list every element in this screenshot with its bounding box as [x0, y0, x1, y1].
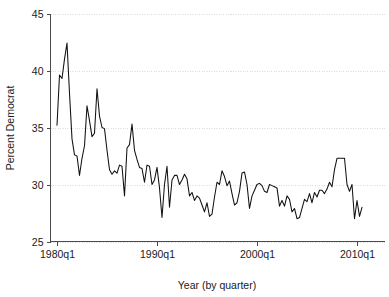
- y-axis-title: Percent Democrat: [4, 86, 16, 171]
- x-tick-label: 1980q1: [40, 248, 75, 260]
- y-tick-label: 45: [32, 8, 44, 20]
- percent-democrat-line-chart: 2530354045 1980q11990q12000q12010q1 Year…: [0, 0, 389, 297]
- y-tick-label: 35: [32, 122, 44, 134]
- x-tick-label: 2010q1: [340, 248, 375, 260]
- chart-container: 2530354045 1980q11990q12000q12010q1 Year…: [0, 0, 389, 297]
- x-tick-label: 2000q1: [240, 248, 275, 260]
- y-tick-label: 40: [32, 65, 44, 77]
- y-tick-label: 25: [32, 236, 44, 248]
- x-tick-label: 1990q1: [140, 248, 175, 260]
- y-tick-label: 30: [32, 179, 44, 191]
- x-axis-title: Year (by quarter): [178, 279, 256, 291]
